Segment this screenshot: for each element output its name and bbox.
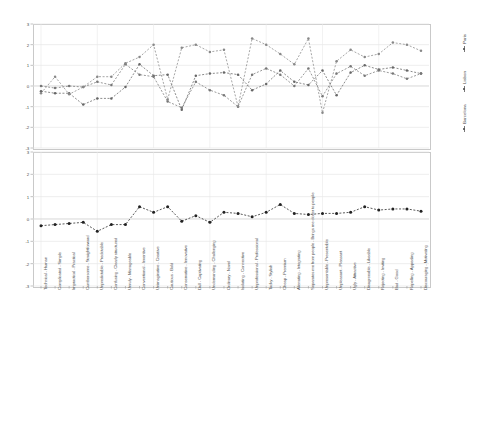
x-axis-label: Unprofessional - Professional (254, 238, 259, 290)
x-axis-label: Alienating - Integrating (296, 251, 301, 290)
bottom-y-tick-2: 2 (19, 172, 29, 177)
top-y-tick-3: 3 (19, 22, 29, 27)
top-y-tick-2: 2 (19, 42, 29, 47)
top-y-tick-1: 1 (19, 63, 29, 68)
legend-item-lisbon[interactable]: Lisbon (462, 71, 467, 92)
bottom-y-tick--1: -1 (19, 239, 29, 244)
legend-marker-icon (462, 86, 467, 92)
x-axis-label: Unpresentable - Presentable (324, 239, 329, 290)
x-axis-label: Unruly - Manageable (127, 253, 132, 290)
x-axis-label: Undemanding - Challenging (211, 240, 216, 290)
x-axis-label: Tacky - Stylish (268, 265, 273, 290)
legend-label: Lisbon (462, 71, 467, 84)
x-axis-label: Unimaginative - Creative (155, 247, 160, 290)
legend-item-paris[interactable]: Paris (462, 34, 467, 52)
x-axis-label: Discouraging - Motivating (423, 245, 428, 290)
x-axis-label: Unpredictable - Predictable (99, 242, 104, 290)
bottom-panel-plot (0, 0, 482, 439)
x-axis-label: Impractical - Practical (71, 252, 76, 290)
x-axis-label: Dull - Captivating (197, 260, 202, 290)
legend-marker-icon (462, 46, 467, 52)
bottom-y-tick-3: 3 (19, 150, 29, 155)
chart-legend: ParisLisbonBarcelona (454, 14, 480, 134)
top-y-tick--1: -1 (19, 104, 29, 109)
x-axis-label: Bad - Good (394, 270, 399, 290)
bottom-y-tick-0: 0 (19, 217, 29, 222)
legend-label: Barcelona (462, 104, 467, 124)
top-y-tick-0: 0 (19, 84, 29, 89)
x-axis-label: Cautious - Bold (169, 263, 174, 290)
bottom-y-tick--2: -2 (19, 261, 29, 266)
x-axis-label: Rejecting - Inviting (380, 258, 385, 290)
top-y-tick--2: -2 (19, 125, 29, 130)
x-axis-label: Ordinary - Novel (226, 261, 231, 290)
x-axis-label: Conventional - Inventive (141, 248, 146, 291)
chart-page: 3210-1-2-3 3210-1-2-3 Technical - HumanC… (0, 0, 482, 439)
x-axis-label: Conservative - Innovative (183, 245, 188, 290)
legend-label: Paris (462, 34, 467, 44)
x-axis-label: Ugly - Attractive (352, 262, 357, 290)
legend-marker-icon (462, 126, 467, 132)
x-axis-label: Cheap - Premium (282, 259, 287, 290)
x-axis-label: Complicated - Simple (57, 252, 62, 290)
x-axis-label: Cumbersome - Straightforward (85, 235, 90, 290)
x-axis-label: Separates me from people - Brings me clo… (310, 193, 315, 290)
x-axis-label: Unpleasant - Pleasant (338, 251, 343, 290)
x-axis-label: Technical - Human (43, 257, 48, 290)
legend-item-barcelona[interactable]: Barcelona (462, 104, 467, 132)
x-axis-label: Confusing - Clearly structured (113, 238, 118, 290)
x-axis-label: Disagreeable - Likeable (366, 248, 371, 290)
x-axis-label: Isolating - Connective (240, 252, 245, 290)
bottom-y-tick--3: -3 (19, 284, 29, 289)
x-axis-label: Repelling - Appealing (409, 253, 414, 290)
bottom-y-tick-1: 1 (19, 194, 29, 199)
